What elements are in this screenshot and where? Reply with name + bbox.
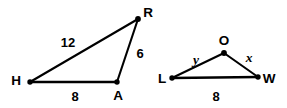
vertex-dot-A <box>114 79 119 84</box>
side-label-LW: 8 <box>212 90 219 103</box>
vertex-dot-L <box>169 75 174 80</box>
vertex-label-R: R <box>143 6 153 20</box>
vertex-dot-O <box>221 50 227 56</box>
vertex-label-L: L <box>158 72 166 86</box>
side-label-AR: 6 <box>136 47 143 60</box>
vertex-label-W: W <box>263 72 276 86</box>
segment-LW <box>172 77 258 78</box>
side-label-OW: x <box>246 51 253 65</box>
side-label-HA: 8 <box>71 90 78 103</box>
vertex-dot-H <box>27 79 32 84</box>
vertex-label-A: A <box>113 89 123 103</box>
side-label-HR: 12 <box>61 36 75 49</box>
vertex-label-O: O <box>219 34 230 48</box>
geometry-figure: H A R 12 6 8 L W O y x 8 <box>0 0 287 108</box>
segment-HR <box>30 19 138 82</box>
vertex-label-H: H <box>11 74 21 88</box>
side-label-LO: y <box>193 53 199 67</box>
segment-OW <box>224 53 258 77</box>
vertex-dot-R <box>135 16 141 22</box>
triangle-HAR-shape <box>27 16 141 85</box>
vertex-dot-W <box>255 74 260 79</box>
